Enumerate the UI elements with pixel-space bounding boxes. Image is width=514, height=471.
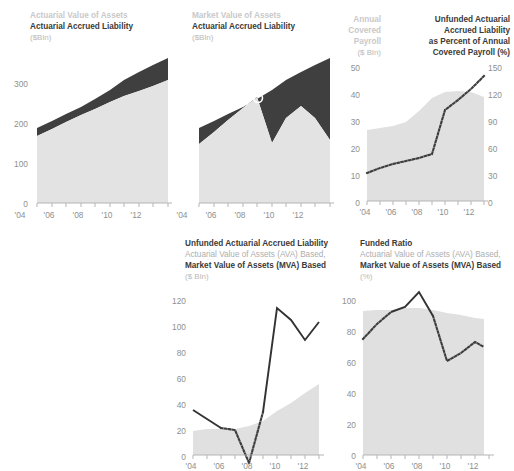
title-line: Unfunded Actuarial Accrued Liability — [185, 238, 328, 249]
y-tick-label: 10 — [332, 171, 360, 181]
title-line: as Percent of Annual — [384, 36, 510, 47]
chart-panel-uaal-pct-payroll: Annual Covered Payroll ($ Bln) Unfunded … — [340, 0, 514, 232]
x-tick-label: '04 — [168, 210, 196, 220]
chart-axis-title-left: Annual Covered Payroll ($ Bln) — [337, 14, 381, 58]
title-line: Market Value of Assets (MVA) Based — [185, 260, 328, 271]
x-tick-label: '12 — [284, 210, 312, 220]
title-line: Annual — [337, 14, 381, 25]
y-tick-label: 40 — [332, 90, 360, 100]
x-tick-label: '08 — [226, 210, 254, 220]
x-tick-label: '10 — [93, 210, 121, 220]
x-tick-label: '12 — [291, 461, 315, 471]
y-tick-label: 50 — [332, 63, 360, 73]
y-tick-label: 20 — [332, 144, 360, 154]
y-tick-label: 60 — [158, 374, 186, 384]
chart-panel-aal-vs-mva: Market Value of Assets Actuarial Accrued… — [170, 0, 340, 232]
title-line: Payroll — [337, 36, 381, 47]
y-tick-label: 100 — [0, 159, 28, 169]
x-axis-ticks — [193, 455, 319, 459]
x-tick-label: '06 — [379, 207, 403, 217]
x-tick-label: '06 — [207, 461, 231, 471]
title-line: Actuarial Accrued Liability — [30, 21, 133, 32]
title-line: Market Value of Assets — [192, 10, 295, 21]
chart-title-uaal-pct-payroll: Unfunded Actuarial Accrued Liability as … — [384, 14, 510, 58]
y-tick-label: 120 — [158, 296, 186, 306]
title-line: Covered — [337, 25, 381, 36]
y-tick-label: 60 — [328, 358, 356, 368]
x-axis-ticks — [199, 203, 330, 207]
y-tick-label: 30 — [332, 117, 360, 127]
x-tick-label: '08 — [405, 461, 429, 471]
chart-plot-uaal-ava-mva — [188, 290, 328, 470]
title-line: Unfunded Actuarial — [384, 14, 510, 25]
x-tick-label: '12 — [457, 207, 481, 217]
title-line: Actuarial Value of Assets (AVA) Based, — [360, 249, 501, 260]
title-line: Accrued Liability — [384, 25, 510, 36]
title-line: Market Value of Assets (MVA) Based — [360, 260, 501, 271]
chart-title-funded-ratio: Funded Ratio Actuarial Value of Assets (… — [360, 238, 501, 282]
x-tick-label: '06 — [377, 461, 401, 471]
chart-title-uaal-ava-mva: Unfunded Actuarial Accrued Liability Act… — [185, 238, 328, 282]
y-tick-label: 100 — [328, 296, 356, 306]
x-tick-label: '06 — [35, 210, 63, 220]
y-tick-label: 300 — [0, 79, 28, 89]
x-tick-label: '06 — [197, 210, 225, 220]
series-area-covered-payroll — [367, 91, 484, 201]
title-line: ($ Bln) — [185, 271, 328, 282]
title-line: ($Bln) — [30, 32, 133, 43]
y-tick-label: 80 — [158, 348, 186, 358]
x-axis-ticks — [363, 455, 489, 459]
title-line: Actuarial Accrued Liability — [192, 21, 295, 32]
title-line: Actuarial Value of Assets — [30, 10, 133, 21]
chart-plot-aal-vs-ava — [32, 58, 172, 208]
series-area-uaal-ava — [193, 384, 319, 455]
y-tick-label: 0 — [0, 199, 28, 209]
x-tick-label: '12 — [122, 210, 150, 220]
y-tick-label: 0 — [328, 451, 356, 461]
title-line: (%) — [360, 271, 501, 282]
x-axis-ticks — [37, 203, 168, 207]
x-axis-ticks — [367, 201, 484, 205]
chart-plot-aal-vs-mva — [194, 58, 334, 208]
chart-panel-uaal-ava-mva: Unfunded Actuarial Accrued Liability Act… — [170, 232, 340, 461]
chart-plot-uaal-pct-payroll — [362, 58, 492, 208]
x-tick-label: '10 — [255, 210, 283, 220]
x-tick-label: '10 — [263, 461, 287, 471]
x-tick-label: '04 — [349, 461, 373, 471]
y-tick-label: 40 — [158, 400, 186, 410]
y-tick-label: 20 — [328, 420, 356, 430]
title-line: ($Bln) — [192, 32, 295, 43]
title-line: ($ Bln) — [337, 47, 381, 58]
y-tick-label: 20 — [158, 426, 186, 436]
chart-panel-funded-ratio: Funded Ratio Actuarial Value of Assets (… — [340, 232, 514, 461]
title-line: Covered Payroll (%) — [384, 47, 510, 58]
chart-panel-aal-vs-ava: Actuarial Value of Assets Actuarial Accr… — [0, 0, 170, 232]
series-line-uaal-mva-solid-a — [193, 410, 221, 428]
chart-title-aal-vs-ava: Actuarial Value of Assets Actuarial Accr… — [30, 10, 133, 43]
x-tick-label: '04 — [179, 461, 203, 471]
x-tick-label: '04 — [6, 210, 34, 220]
x-tick-label: '04 — [353, 207, 377, 217]
series-area-funded-ratio-ava — [363, 308, 484, 455]
y-tick-label: 80 — [328, 327, 356, 337]
x-tick-label: '10 — [433, 461, 457, 471]
title-line: Actuarial Value of Assets (AVA) Based, — [185, 249, 328, 260]
x-tick-label: '12 — [461, 461, 485, 471]
x-tick-label: '08 — [64, 210, 92, 220]
chart-title-aal-vs-mva: Market Value of Assets Actuarial Accrued… — [192, 10, 295, 43]
chart-plot-funded-ratio — [358, 290, 498, 470]
x-tick-label: '08 — [235, 461, 259, 471]
y-tick-label: 200 — [0, 119, 28, 129]
y-tick-label: 40 — [328, 389, 356, 399]
x-tick-label: '10 — [431, 207, 455, 217]
y-tick-label: 100 — [158, 322, 186, 332]
x-tick-label: '08 — [405, 207, 429, 217]
title-line: Funded Ratio — [360, 238, 501, 249]
